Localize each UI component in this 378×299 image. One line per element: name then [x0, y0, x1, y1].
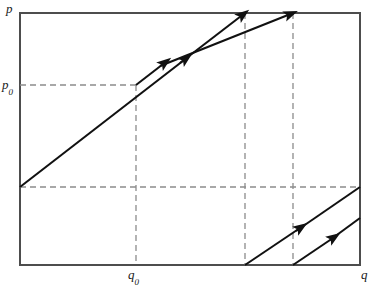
axis-label-p0: p0	[2, 78, 13, 95]
axis-label-q0-subscript: 0	[135, 277, 140, 287]
phase-diagram-figure: p p0 q q0	[0, 0, 378, 299]
trajectory-segment-1-tail	[180, 13, 245, 63]
trajectory-segment-4-tail	[330, 218, 360, 240]
trajectory-lines	[20, 13, 360, 265]
axis-label-q0: q0	[128, 268, 139, 285]
dashed-guides	[20, 13, 360, 265]
axis-label-p0-base: p	[2, 77, 9, 92]
axis-label-q0-base: q	[128, 267, 135, 282]
plot-frame	[20, 13, 360, 265]
trajectory-segment-1-head	[20, 57, 188, 187]
axis-label-q: q	[361, 268, 368, 281]
diagram-canvas	[0, 0, 378, 299]
axis-label-p: p	[6, 2, 13, 15]
trajectory-segment-2-tail	[160, 13, 293, 66]
trajectory-segment-3-head	[245, 226, 303, 265]
trajectory-segment-4-head	[293, 236, 336, 265]
axis-label-p0-subscript: 0	[9, 87, 14, 97]
